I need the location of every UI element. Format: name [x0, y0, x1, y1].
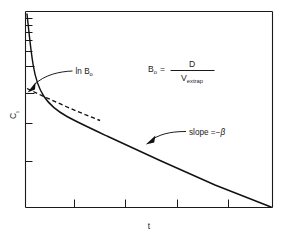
y-axis-label-subscript: ₁	[13, 111, 19, 113]
semilog-concentration-decay-chart: ln Bo slope =−β Bo = D Vextrap C₁ t	[0, 0, 287, 241]
equation-denominator-subscript: extrap	[187, 78, 203, 84]
equation-lhs-subscript: o	[154, 69, 157, 75]
slope-label-beta: β	[219, 128, 225, 137]
equation-equals-sign: =	[160, 64, 165, 74]
slope-label: slope =−β	[189, 128, 225, 137]
equation-numerator: D	[189, 59, 195, 69]
ln-b0-label-main: ln B	[76, 67, 91, 76]
chart-figure: ln Bo slope =−β Bo = D Vextrap C₁ t	[0, 0, 287, 241]
chart-background	[0, 0, 287, 241]
slope-label-text: slope =−	[189, 128, 221, 137]
ln-b0-label-subscript: o	[90, 71, 93, 77]
